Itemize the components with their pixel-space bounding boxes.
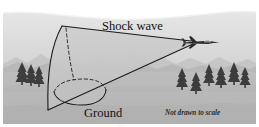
label-ground: Ground [84, 106, 123, 120]
label-shock-wave: Shock wave [102, 19, 163, 33]
figure-canvas: Shock wave Ground Not drawn to scale [0, 0, 259, 127]
shock-wave-figure: Shock wave Ground Not drawn to scale [0, 0, 259, 127]
label-not-drawn-to-scale: Not drawn to scale [164, 109, 221, 117]
